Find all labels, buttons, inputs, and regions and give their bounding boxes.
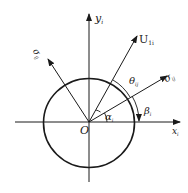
beta-label: βi [143,105,152,117]
y-axis-label: yi [94,12,103,25]
alpha-label: αi [105,111,114,123]
vector-u-label: U1i [139,33,154,46]
sigma-right-label: σij [162,70,177,86]
x-axis-label: xi [172,126,179,137]
circle-stress-diagram: yi xi O U1i σij σij θij αi βi [0,0,188,193]
beta-angle-arc [132,96,139,121]
theta-label: θij [129,75,139,88]
origin-label: O [80,124,89,137]
sigma-left-arrow [48,59,89,122]
theta-angle-arc [113,80,130,97]
sigma-left-label: σij [29,46,44,61]
sigma-right-arrow [89,76,167,122]
alpha-u-arc [96,110,101,112]
